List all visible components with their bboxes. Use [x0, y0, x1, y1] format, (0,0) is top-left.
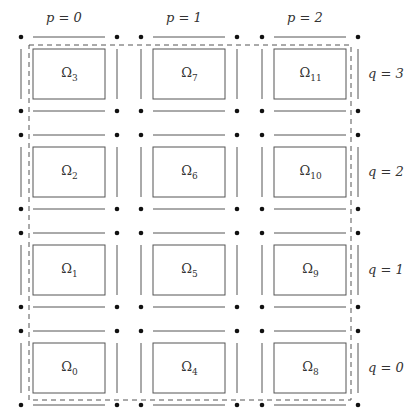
node-dot [19, 35, 24, 40]
node-dot [115, 231, 120, 236]
subdomain-label: Ω11 [274, 65, 347, 83]
node-dot [139, 305, 144, 310]
node-dot [19, 305, 24, 310]
node-dot [356, 35, 361, 40]
subdomain-label: Ω6 [153, 163, 226, 181]
node-dot [115, 403, 120, 408]
node-dot [235, 35, 240, 40]
node-dot [19, 329, 24, 334]
decomposition-grid [0, 0, 415, 420]
subdomain-label: Ω7 [153, 65, 226, 83]
node-dot [260, 305, 265, 310]
node-dot [260, 133, 265, 138]
node-dot [139, 231, 144, 236]
subdomain-label: Ω2 [33, 163, 106, 181]
node-dot [356, 231, 361, 236]
column-label: p = 0 [46, 10, 82, 25]
node-dot [260, 35, 265, 40]
node-dot [356, 305, 361, 310]
node-dot [139, 133, 144, 138]
node-dot [115, 35, 120, 40]
node-dot [260, 231, 265, 236]
node-dot [260, 403, 265, 408]
node-dot [235, 207, 240, 212]
row-label: q = 3 [368, 66, 404, 81]
node-dot [115, 133, 120, 138]
column-label: p = 1 [166, 10, 202, 25]
subdomain-label: Ω10 [274, 163, 347, 181]
node-dot [260, 329, 265, 334]
node-dot [115, 109, 120, 114]
node-dot [356, 403, 361, 408]
subdomain-label: Ω1 [33, 261, 106, 279]
node-dot [139, 329, 144, 334]
node-dot [19, 403, 24, 408]
row-label: q = 0 [368, 360, 404, 375]
subdomain-label: Ω5 [153, 261, 226, 279]
node-dot [356, 207, 361, 212]
node-dot [235, 305, 240, 310]
subdomain-label: Ω8 [274, 359, 347, 377]
node-dot [235, 403, 240, 408]
node-dot [356, 109, 361, 114]
column-label: p = 2 [287, 10, 323, 25]
node-dot [139, 403, 144, 408]
node-dot [115, 305, 120, 310]
node-dot [356, 329, 361, 334]
node-dot [19, 109, 24, 114]
subdomain-label: Ω0 [33, 359, 106, 377]
node-dot [19, 207, 24, 212]
node-dot [139, 35, 144, 40]
global-domain-boundary [29, 45, 351, 400]
node-dot [356, 133, 361, 138]
subdomain-label: Ω3 [33, 65, 106, 83]
node-dot [139, 207, 144, 212]
subdomain-label: Ω9 [274, 261, 347, 279]
node-dot [115, 207, 120, 212]
node-dot [139, 109, 144, 114]
node-dot [235, 231, 240, 236]
node-dot [235, 109, 240, 114]
node-dot [260, 207, 265, 212]
node-dot [235, 329, 240, 334]
node-dot [19, 231, 24, 236]
node-dot [235, 133, 240, 138]
row-label: q = 2 [368, 164, 404, 179]
node-dot [19, 133, 24, 138]
subdomain-label: Ω4 [153, 359, 226, 377]
row-label: q = 1 [368, 262, 404, 277]
node-dot [115, 329, 120, 334]
node-dot [260, 109, 265, 114]
